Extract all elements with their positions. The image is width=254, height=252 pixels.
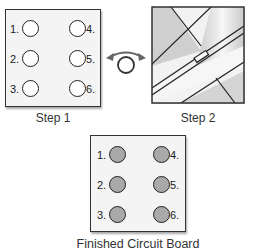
solder-pad-1 — [109, 146, 126, 163]
pad-3 — [22, 80, 39, 97]
step1-board: 1. 2. 3. 4. 5. 6. — [5, 9, 101, 107]
pad-6 — [69, 80, 86, 97]
pad-label-2: 2. — [97, 179, 106, 191]
pad-label-4: 4. — [86, 23, 95, 35]
pad-label-4: 4. — [170, 149, 179, 161]
finished-board: 1. 2. 3. 4. 5. 6. — [90, 135, 186, 232]
finished-caption: Finished Circuit Board — [68, 237, 208, 251]
solder-pad-4 — [153, 146, 170, 163]
pad-label-5: 5. — [170, 179, 179, 191]
pad-label-3: 3. — [97, 209, 106, 221]
flip-rotate-arrow-icon — [104, 44, 148, 78]
pad-label-1: 1. — [10, 23, 19, 35]
pad-2 — [22, 50, 39, 67]
step2-board — [151, 6, 247, 107]
pad-label-6: 6. — [86, 83, 95, 95]
solder-pad-6 — [153, 206, 170, 223]
pad-label-3: 3. — [10, 83, 19, 95]
pad-5 — [69, 50, 86, 67]
pad-1 — [22, 20, 39, 37]
step2-caption: Step 2 — [150, 111, 246, 125]
solder-pad-5 — [153, 176, 170, 193]
solder-pad-3 — [109, 206, 126, 223]
pad-label-5: 5. — [86, 53, 95, 65]
step1-caption: Step 1 — [5, 111, 101, 125]
pad-label-6: 6. — [170, 209, 179, 221]
solder-pad-2 — [109, 176, 126, 193]
pad-label-1: 1. — [97, 149, 106, 161]
pad-4 — [69, 20, 86, 37]
pad-label-2: 2. — [10, 53, 19, 65]
